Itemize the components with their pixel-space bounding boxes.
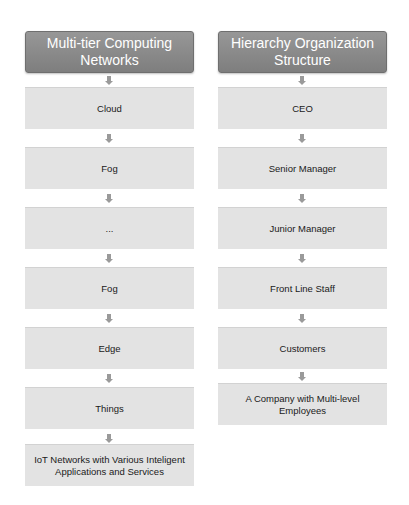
down-arrow-icon [105, 76, 113, 85]
down-arrow-icon [298, 372, 306, 381]
org-box-junior-manager: Junior Manager [218, 207, 387, 249]
tier-box-ellipsis: ... [25, 207, 194, 249]
down-arrow-icon [298, 254, 306, 263]
org-box-ceo: CEO [218, 87, 387, 129]
column-header: Multi-tier Computing Networks [25, 31, 194, 73]
org-box-customers: Customers [218, 327, 387, 369]
org-box-company: A Company with Multi-level Employees [218, 383, 387, 425]
tier-box-edge: Edge [25, 327, 194, 369]
org-box-senior-manager: Senior Manager [218, 147, 387, 189]
tier-box-cloud: Cloud [25, 87, 194, 129]
org-box-front-line-staff: Front Line Staff [218, 267, 387, 309]
down-arrow-icon [105, 254, 113, 263]
tier-box-iot-networks: IoT Networks with Various Inteligent App… [25, 444, 194, 486]
down-arrow-icon [105, 314, 113, 323]
tier-box-fog: Fog [25, 147, 194, 189]
down-arrow-icon [298, 134, 306, 143]
tier-box-fog-2: Fog [25, 267, 194, 309]
column-header: Hierarchy Organization Structure [218, 31, 387, 73]
down-arrow-icon [105, 194, 113, 203]
down-arrow-icon [298, 314, 306, 323]
down-arrow-icon [105, 374, 113, 383]
down-arrow-icon [298, 76, 306, 85]
down-arrow-icon [298, 194, 306, 203]
down-arrow-icon [105, 134, 113, 143]
down-arrow-icon [105, 434, 113, 443]
tier-box-things: Things [25, 387, 194, 429]
